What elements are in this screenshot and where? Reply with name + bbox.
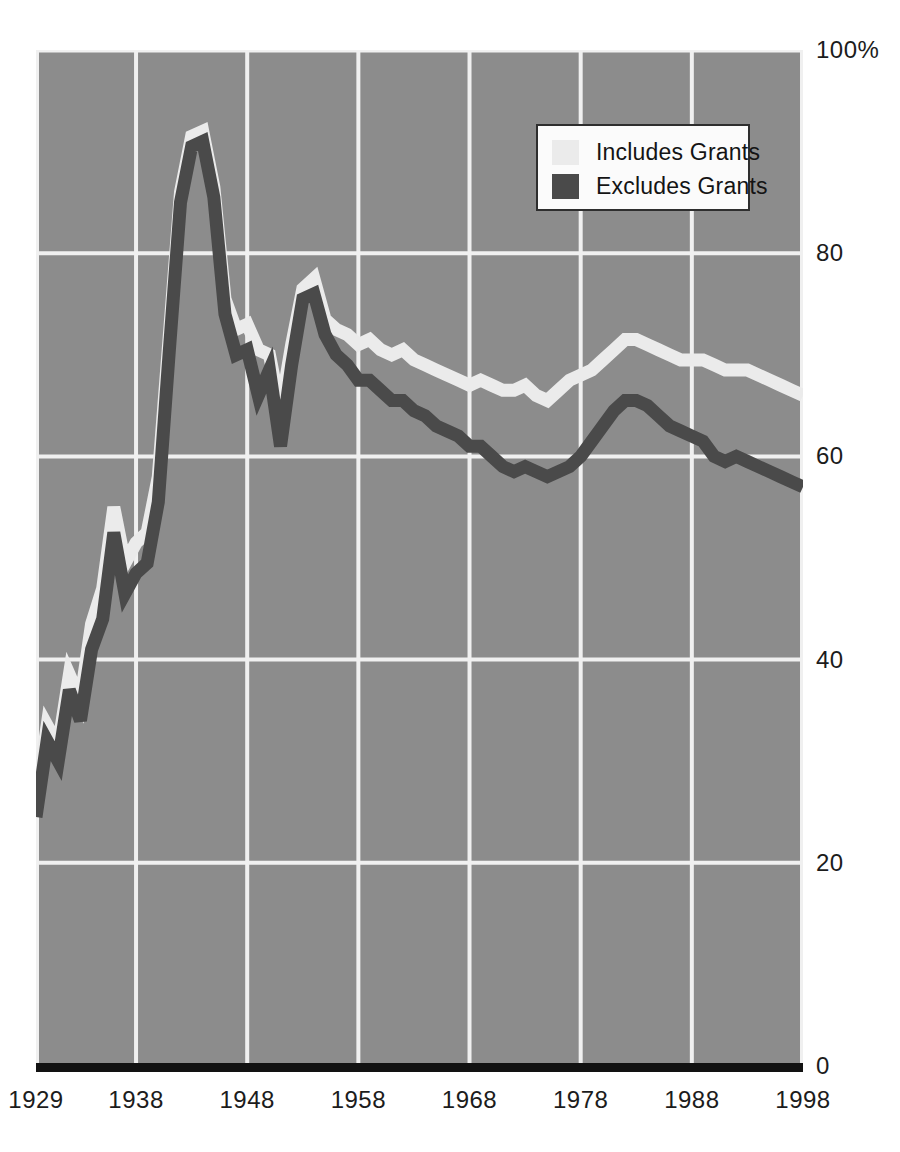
legend-swatch-excludes-grants bbox=[552, 174, 579, 199]
legend-item-includes-grants: Includes Grants bbox=[552, 135, 748, 169]
y-tick-label-60: 60 bbox=[816, 444, 844, 468]
y-tick-label-100: 100% bbox=[816, 38, 879, 62]
y-tick-label-40: 40 bbox=[816, 648, 844, 672]
y-tick-label-20: 20 bbox=[816, 851, 844, 875]
x-tick-label-1948: 1948 bbox=[219, 1088, 274, 1112]
x-tick-label-1929: 1929 bbox=[8, 1088, 63, 1112]
x-tick-label-1988: 1988 bbox=[664, 1088, 719, 1112]
x-tick-label-1938: 1938 bbox=[108, 1088, 163, 1112]
y-tick-label-0: 0 bbox=[816, 1054, 830, 1078]
x-axis-baseline bbox=[36, 1063, 803, 1072]
x-tick-label-1968: 1968 bbox=[442, 1088, 497, 1112]
x-tick-label-1978: 1978 bbox=[553, 1088, 608, 1112]
chart-legend: Includes Grants Excludes Grants bbox=[536, 124, 750, 211]
x-tick-label-1958: 1958 bbox=[331, 1088, 386, 1112]
legend-label-excludes-grants: Excludes Grants bbox=[596, 175, 768, 198]
y-tick-label-80: 80 bbox=[816, 241, 844, 265]
x-tick-label-1998: 1998 bbox=[775, 1088, 830, 1112]
legend-label-includes-grants: Includes Grants bbox=[596, 141, 760, 164]
legend-item-excludes-grants: Excludes Grants bbox=[552, 169, 748, 203]
chart-figure: 100%806040200 19291938194819581968197819… bbox=[0, 0, 900, 1152]
legend-swatch-includes-grants bbox=[552, 140, 579, 165]
